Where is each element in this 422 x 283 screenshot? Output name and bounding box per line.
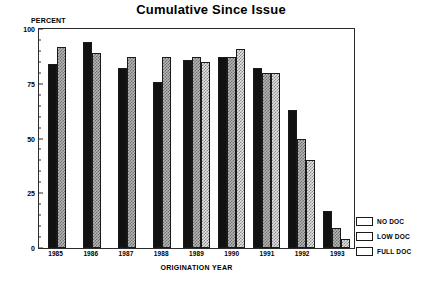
chart-title: Cumulative Since Issue [0,2,422,17]
bar-group [109,29,144,248]
x-tick-label: 1987 [108,250,143,257]
legend-swatch-full [356,247,373,256]
bar-low-1990 [227,57,236,248]
x-tick-label: 1985 [38,250,73,257]
legend-label: NO DOC [377,218,404,225]
legend-item-no: NO DOC [356,214,411,229]
bar-group [179,29,214,248]
x-tick-label: 1988 [144,250,179,257]
bar-group [249,29,284,248]
bar-full-1991 [253,68,262,248]
legend-item-full: FULL DOC [356,244,411,259]
bar-full-1985 [48,64,57,248]
plot-area: 0255075100 [38,28,355,249]
bar-group [39,29,74,248]
bar-full-1989 [183,60,192,248]
x-tick-label: 1986 [73,250,108,257]
bar-no-1992 [306,160,315,248]
bar-group [74,29,109,248]
x-axis-ticks: 198519861987198819891990199119921993 [38,250,355,257]
bar-no-1989 [201,62,210,248]
x-tick-label: 1990 [214,250,249,257]
y-axis-label: PERCENT [31,17,66,24]
bar-group [284,29,319,248]
bar-full-1986 [83,42,92,248]
bar-full-1990 [218,57,227,248]
y-tick-label: 25 [27,190,39,197]
bar-groups [39,29,354,248]
bar-no-1993 [341,239,350,248]
legend-swatch-no [356,217,373,226]
x-tick-label: 1992 [285,250,320,257]
y-tick-label: 50 [27,135,39,142]
bar-low-1993 [332,228,341,248]
x-tick-label: 1993 [320,250,355,257]
bar-full-1987 [118,68,127,248]
bar-full-1992 [288,110,297,248]
x-tick-label: 1991 [249,250,284,257]
legend-label: LOW DOC [377,233,410,240]
bar-low-1989 [192,57,201,248]
bar-low-1992 [297,139,306,249]
bar-low-1985 [57,47,66,248]
legend-swatch-low [356,232,373,241]
bar-no-1990 [236,49,245,248]
x-tick-label: 1989 [179,250,214,257]
bar-low-1986 [92,53,101,248]
bar-low-1987 [127,57,136,248]
chart-page: Cumulative Since Issue PERCENT 025507510… [0,0,422,283]
legend-label: FULL DOC [377,248,411,255]
bar-full-1988 [153,82,162,248]
bar-group [319,29,354,248]
bar-group [214,29,249,248]
bar-low-1991 [262,73,271,248]
bar-full-1993 [323,211,332,248]
y-tick-label: 100 [23,26,39,33]
x-axis-label: ORIGINATION YEAR [38,264,355,271]
chart-legend: NO DOCLOW DOCFULL DOC [356,214,411,259]
bar-no-1991 [271,73,280,248]
legend-item-low: LOW DOC [356,229,411,244]
y-tick-label: 75 [27,80,39,87]
bar-group [144,29,179,248]
bar-low-1988 [162,57,171,248]
